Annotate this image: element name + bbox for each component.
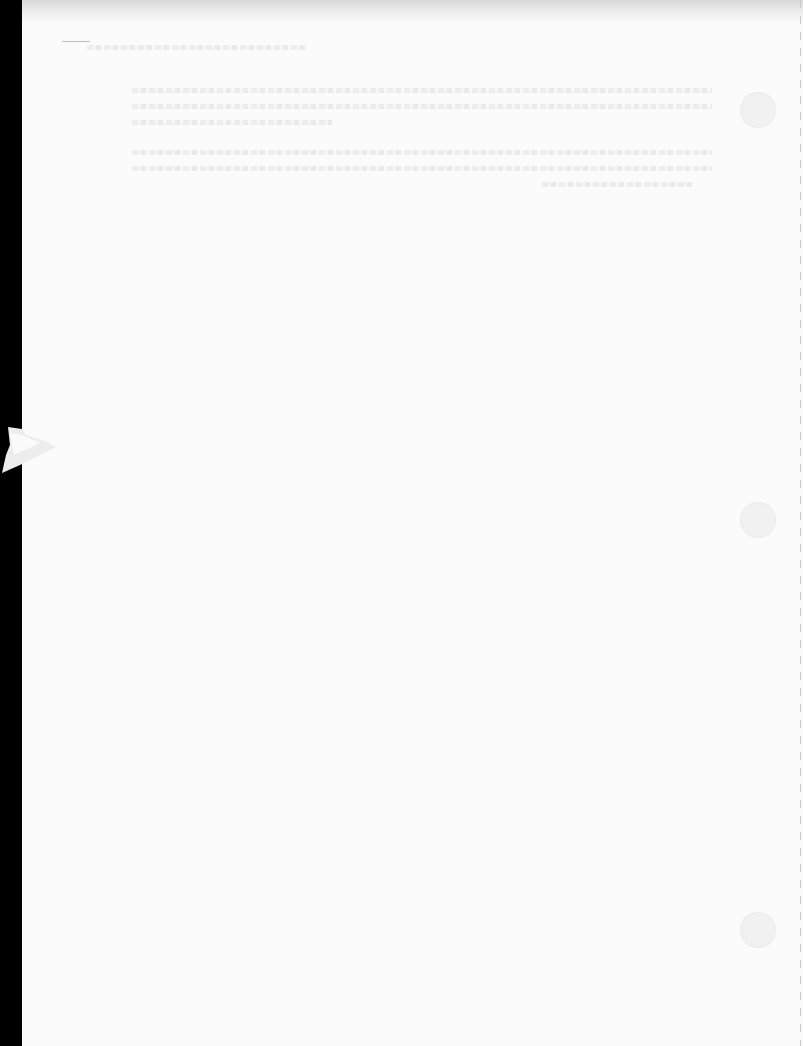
bleed-through-line [87,45,307,50]
bleed-through-line [132,120,332,125]
punch-hole [740,912,776,948]
bleed-through-line [542,182,692,187]
punch-hole [740,92,776,128]
bleed-through-line [132,104,712,109]
bleed-through-line [132,88,712,93]
header-rule [62,41,90,42]
bleed-through-line [132,150,712,155]
scanned-page [22,0,803,1046]
punch-hole [740,502,776,538]
bleed-through-line [132,166,712,171]
perforation-line [800,0,801,1046]
page-top-shadow [22,0,803,24]
torn-paper-fragment-icon [0,425,60,475]
